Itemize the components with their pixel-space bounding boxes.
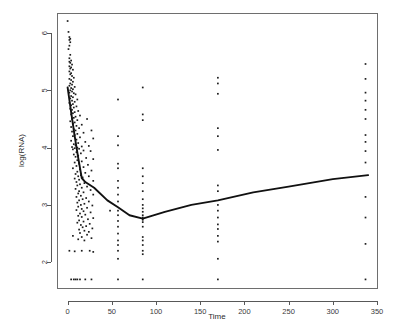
data-point	[117, 233, 119, 235]
data-point	[117, 210, 119, 212]
data-point	[69, 41, 71, 43]
data-point	[117, 244, 119, 246]
data-point	[117, 214, 119, 216]
data-point	[88, 201, 90, 203]
data-point	[73, 279, 75, 281]
data-point	[90, 212, 92, 214]
data-point	[77, 238, 79, 240]
data-point	[73, 92, 75, 94]
data-point	[142, 211, 144, 213]
data-point	[142, 279, 144, 281]
data-point	[70, 140, 72, 142]
data-point	[84, 141, 86, 143]
data-point	[142, 87, 144, 89]
data-point	[217, 235, 219, 237]
data-point	[83, 166, 85, 168]
data-point	[117, 201, 119, 203]
data-point	[84, 230, 86, 232]
data-point	[75, 173, 77, 175]
data-point	[78, 190, 80, 192]
data-point	[81, 124, 83, 126]
y-axis-title: log(RNA)	[17, 134, 26, 167]
data-point	[217, 185, 219, 187]
data-point	[77, 175, 79, 177]
data-point	[69, 250, 71, 252]
data-point	[68, 31, 70, 33]
data-point	[84, 240, 86, 242]
data-point	[365, 162, 367, 164]
data-point	[142, 182, 144, 184]
data-point	[217, 228, 219, 230]
data-point	[142, 175, 144, 177]
data-point	[217, 258, 219, 260]
data-point	[80, 195, 82, 197]
data-point	[217, 83, 219, 85]
data-point	[73, 143, 75, 145]
data-point	[72, 149, 74, 151]
data-point	[83, 210, 85, 212]
data-point	[69, 68, 71, 70]
data-point	[83, 191, 85, 193]
data-point	[89, 223, 91, 225]
data-point	[117, 163, 119, 165]
data-point	[88, 231, 90, 233]
data-point	[74, 122, 76, 124]
data-point	[81, 161, 83, 163]
data-point	[217, 217, 219, 219]
data-point	[86, 186, 88, 188]
data-point	[69, 36, 71, 38]
data-point	[92, 194, 94, 196]
data-point	[76, 202, 78, 204]
data-point	[76, 196, 78, 198]
data-point	[76, 171, 78, 173]
data-point	[70, 79, 72, 81]
data-point	[142, 167, 144, 169]
data-point	[69, 38, 71, 40]
x-tick-label: 350	[371, 307, 384, 316]
y-tick-label: 6	[40, 31, 49, 35]
data-point	[78, 199, 80, 201]
data-point	[91, 237, 93, 239]
data-point	[72, 103, 74, 105]
data-point	[217, 149, 219, 151]
data-point	[75, 94, 77, 96]
data-point	[117, 250, 119, 252]
data-point	[84, 203, 86, 205]
data-point	[72, 235, 74, 237]
data-point	[81, 250, 83, 252]
data-point	[92, 180, 94, 182]
x-tick-label: 100	[150, 307, 163, 316]
data-point	[142, 236, 144, 238]
data-point	[91, 130, 93, 132]
data-point	[117, 226, 119, 228]
data-point	[79, 279, 81, 281]
data-point	[69, 65, 71, 67]
data-point	[365, 217, 367, 219]
data-point	[365, 109, 367, 111]
data-point	[76, 133, 78, 135]
data-point	[117, 220, 119, 222]
y-tick-label: 5	[40, 88, 49, 92]
data-point	[85, 225, 87, 227]
plot-figure: 050100150200250300350 23456 Timelog(RNA)	[0, 0, 401, 331]
data-point	[90, 150, 92, 152]
data-point	[69, 73, 71, 75]
data-point	[142, 208, 144, 210]
data-point	[75, 156, 77, 158]
x-tick-label: 250	[282, 307, 295, 316]
data-point	[78, 179, 80, 181]
data-point	[76, 125, 78, 127]
data-point	[117, 167, 119, 169]
data-point	[87, 164, 89, 166]
data-point	[69, 54, 71, 56]
data-point	[217, 127, 219, 129]
data-point	[80, 224, 82, 226]
data-point	[142, 250, 144, 252]
data-point	[117, 99, 119, 101]
y-tick-label: 2	[40, 260, 49, 264]
data-point	[73, 154, 75, 156]
data-point	[117, 279, 119, 281]
data-point	[76, 99, 78, 101]
data-point	[217, 93, 219, 95]
data-point	[72, 135, 74, 137]
